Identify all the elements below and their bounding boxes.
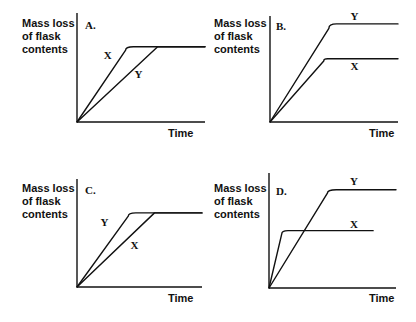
series-label-y: Y [351,10,359,22]
y-axis-label: Mass lossof flaskcontents [214,17,267,55]
series-label-y: Y [101,216,109,228]
panel-label: B. [276,20,286,32]
y-axis-label-line: Mass loss [214,17,267,29]
series-line-y [77,47,205,122]
y-axis-label-line: Mass loss [22,17,75,29]
series-label-x: X [131,239,139,251]
y-axis-label: Mass lossof flaskcontents [214,182,267,220]
y-axis-label-line: Mass loss [214,182,267,194]
panel-a: Mass lossof flaskcontentsTimeA.XY [22,13,205,139]
y-axis-label-line: contents [22,43,68,55]
x-axis-label: Time [168,127,193,139]
panel-b: Mass lossof flaskcontentsTimeB.YX [214,10,398,139]
x-axis-label: Time [168,292,193,304]
series-label-x: X [104,49,112,61]
panel-label: C. [85,184,96,196]
panel-label: A. [85,19,96,31]
series-line-x [269,231,373,288]
y-axis-label-line: of flask [22,195,61,207]
series-line-y [269,190,396,288]
series-label-y: Y [134,68,142,80]
x-axis-label: Time [369,127,394,139]
series-line-y [77,213,202,287]
series-line-x [77,213,202,287]
series-label-y: Y [350,175,358,187]
y-axis-label-line: of flask [214,30,253,42]
series-label-x: X [350,218,358,230]
chart-grid: Mass lossof flaskcontentsTimeA.XYMass lo… [0,0,416,322]
y-axis-label-line: contents [214,43,260,55]
panel-d: Mass lossof flaskcontentsTimeD.YX [214,173,396,304]
y-axis-label-line: Mass loss [22,182,75,194]
series-label-x: X [351,60,359,72]
y-axis-label-line: contents [214,208,260,220]
panel-label: D. [276,185,287,197]
y-axis-label: Mass lossof flaskcontents [22,182,75,220]
y-axis-label-line: of flask [214,195,253,207]
y-axis-label-line: of flask [22,30,61,42]
panel-c: Mass lossof flaskcontentsTimeC.YX [22,179,202,304]
y-axis-label-line: contents [22,208,68,220]
series-line-y [270,24,398,122]
y-axis-label: Mass lossof flaskcontents [22,17,75,55]
series-line-x [77,47,205,122]
x-axis-label: Time [369,292,394,304]
